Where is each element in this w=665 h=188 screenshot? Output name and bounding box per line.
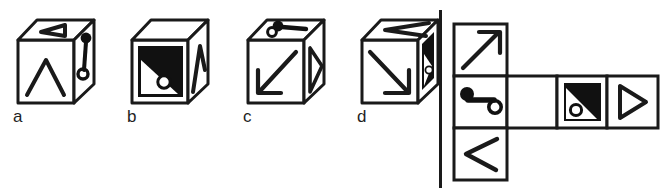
net-cell-key[interactable] — [454, 76, 507, 128]
cube-c-drawing — [238, 8, 348, 118]
spatial-reasoning-figure: a b — [0, 0, 665, 188]
cube-net — [450, 20, 662, 184]
net-cell-arrow-up-right[interactable] — [454, 24, 507, 76]
cube-option-a[interactable]: a — [8, 8, 118, 138]
net-cell-triangle-right[interactable] — [607, 76, 658, 128]
cube-option-d[interactable]: d — [352, 8, 462, 138]
cube-net-drawing — [450, 20, 662, 184]
vertical-divider — [439, 10, 442, 188]
net-cell-black-square-triangle-circle[interactable] — [557, 76, 607, 128]
option-label-b: b — [127, 108, 136, 125]
option-label-c: c — [243, 108, 252, 125]
net-cell-blank[interactable] — [507, 76, 557, 128]
net-cell-chevron-left[interactable] — [454, 128, 507, 180]
cube-d-drawing — [352, 8, 462, 118]
option-label-a: a — [13, 108, 22, 125]
cube-option-c[interactable]: c — [238, 8, 348, 138]
cube-b-drawing — [122, 8, 232, 118]
cube-a-drawing — [8, 8, 118, 118]
option-label-d: d — [357, 108, 366, 125]
cube-option-b[interactable]: b — [122, 8, 232, 138]
cube-b-front-symbol-black-square-triangle-circle — [138, 46, 183, 97]
